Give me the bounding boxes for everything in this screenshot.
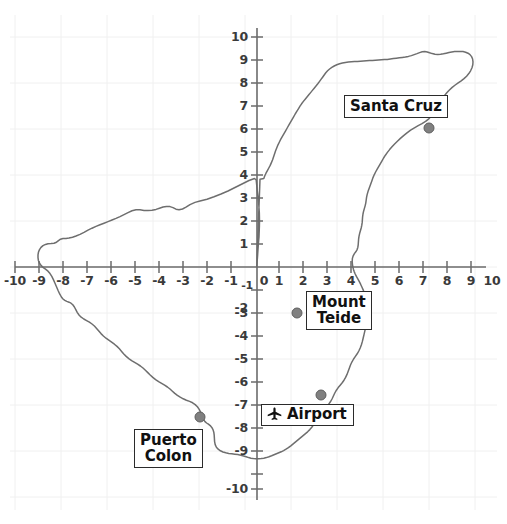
y-tick-label-10: 10 (231, 31, 248, 44)
x-tick-label-2: 2 (299, 275, 308, 288)
y-tick-label-7: 7 (240, 100, 249, 113)
coordinate-map-figure: -10 -9 -8 -7 -6 -5 -4 -3 -2 -1 0 1 2 3 4… (0, 0, 507, 524)
y-tick-label--3: -3 (235, 307, 249, 320)
poi-dot-puerto-colon[interactable] (195, 412, 206, 423)
x-tick-label--7: -7 (80, 275, 94, 288)
y-tick-label-2: 2 (240, 215, 249, 228)
y-tick-label--10: -10 (226, 483, 248, 496)
poi-dot-airport[interactable] (316, 390, 327, 401)
poi-label-mount-teide-line1: Mount (312, 294, 366, 310)
poi-label-mount-teide-line2: Teide (312, 310, 366, 326)
y-tick-label-3: 3 (240, 192, 249, 205)
x-tick-label-5: 5 (371, 275, 380, 288)
x-tick-label-9: 9 (467, 275, 476, 288)
poi-label-puerto-colon[interactable]: Puerto Colon (134, 429, 203, 468)
y-tick-label-1: 1 (240, 238, 249, 251)
y-tick-label--9: -9 (235, 445, 249, 458)
x-tick-label-4: 4 (347, 275, 356, 288)
x-tick-label--9: -9 (32, 275, 46, 288)
x-tick-label--6: -6 (104, 275, 118, 288)
x-tick-label--5: -5 (128, 275, 142, 288)
poi-label-mount-teide[interactable]: Mount Teide (306, 291, 372, 330)
y-tick-label-4: 4 (240, 169, 249, 182)
x-tick-label-8: 8 (443, 275, 452, 288)
poi-label-puerto-colon-line1: Puerto (140, 432, 197, 448)
poi-dot-santa-cruz[interactable] (424, 123, 435, 134)
y-tick-label--8: -8 (235, 422, 249, 435)
y-tick-label-9: 9 (240, 54, 249, 67)
background-grid (10, 15, 497, 510)
poi-label-airport-text: Airport (287, 406, 347, 422)
x-tick-label--10: -10 (4, 275, 26, 288)
y-tick-label-6: 6 (240, 123, 249, 136)
y-tick-label-8: 8 (240, 77, 249, 90)
y-tick-label--5: -5 (235, 353, 249, 366)
y-tick-label--4: -4 (235, 330, 249, 343)
x-tick-label--4: -4 (152, 275, 166, 288)
plot-canvas (0, 0, 507, 524)
x-tick-label-3: 3 (323, 275, 332, 288)
y-tick-label--1: -1 (241, 280, 253, 291)
y-tick-label--7: -7 (235, 399, 249, 412)
x-tick-label--2: -2 (200, 275, 214, 288)
poi-label-puerto-colon-line2: Colon (140, 448, 197, 464)
airplane-icon (266, 406, 283, 423)
x-tick-label-10: 10 (484, 275, 501, 288)
poi-label-santa-cruz-text: Santa Cruz (350, 98, 442, 114)
x-tick-label--3: -3 (176, 275, 190, 288)
y-tick-label--6: -6 (235, 376, 249, 389)
x-tick-label-0: 0 (260, 275, 269, 288)
x-tick-label--8: -8 (56, 275, 70, 288)
poi-dot-mount-teide[interactable] (292, 308, 303, 319)
poi-label-airport[interactable]: Airport (261, 404, 354, 426)
x-tick-label--1: -1 (224, 275, 238, 288)
poi-label-santa-cruz[interactable]: Santa Cruz (344, 95, 448, 118)
y-tick-label-5: 5 (240, 146, 249, 159)
x-tick-label-6: 6 (395, 275, 404, 288)
x-tick-label-1: 1 (275, 275, 284, 288)
x-tick-label-7: 7 (419, 275, 428, 288)
